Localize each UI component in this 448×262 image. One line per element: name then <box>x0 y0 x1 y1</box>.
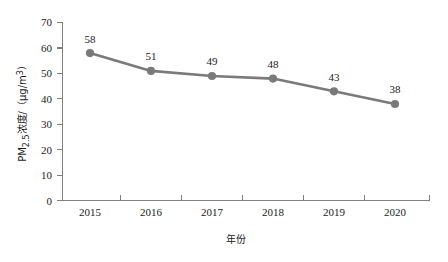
y-axis-title-middle: 浓度/（μg/m <box>16 75 28 134</box>
data-point-2018 <box>269 75 277 83</box>
y-tick-label-70: 70 <box>41 16 53 28</box>
y-tick-label-10: 10 <box>41 169 53 181</box>
data-label-2015: 58 <box>85 33 97 45</box>
x-tick-label-2019: 2019 <box>323 206 346 218</box>
y-tick-label-40: 40 <box>41 93 53 105</box>
data-point-2017 <box>208 72 216 80</box>
y-axis-title-suffix: ） <box>17 60 28 70</box>
x-tick-label-2020: 2020 <box>384 206 407 218</box>
data-label-2019: 43 <box>329 71 341 83</box>
x-axis-title: 年份 <box>226 233 246 245</box>
data-label-2016: 51 <box>146 50 157 62</box>
x-tick-label-2015: 2015 <box>79 206 102 218</box>
y-axis-title-subscript: 2.5 <box>22 134 31 147</box>
data-label-2018: 48 <box>268 58 280 70</box>
y-tick-label-20: 20 <box>41 144 53 156</box>
y-tick-label-50: 50 <box>41 67 53 79</box>
x-tick-label-2018: 2018 <box>262 206 285 218</box>
chart-background <box>0 0 448 262</box>
data-point-2016 <box>147 67 155 75</box>
data-point-2019 <box>330 87 338 95</box>
data-label-2020: 38 <box>390 83 402 95</box>
chart-canvas: 70 60 50 40 30 20 10 0 2015 2016 2017 20… <box>0 0 448 262</box>
y-axis-title-prefix: PM <box>17 147 28 162</box>
y-tick-label-30: 30 <box>41 118 53 130</box>
data-label-2017: 49 <box>207 55 219 67</box>
x-tick-label-2016: 2016 <box>140 206 163 218</box>
y-tick-label-60: 60 <box>41 42 53 54</box>
data-point-2020 <box>391 100 399 108</box>
pm25-line-chart: 70 60 50 40 30 20 10 0 2015 2016 2017 20… <box>0 0 448 262</box>
y-tick-label-0: 0 <box>47 195 53 207</box>
data-point-2015 <box>86 49 94 57</box>
x-tick-label-2017: 2017 <box>201 206 224 218</box>
